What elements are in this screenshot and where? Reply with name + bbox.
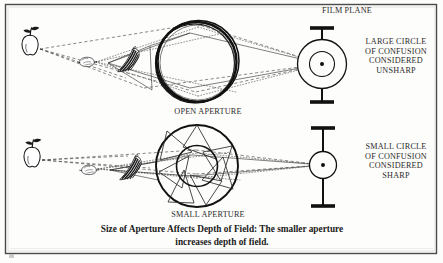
label-large-circle-of-confusion: LARGE CIRCLE OF CONFUSION CONSIDERED UNS… [352, 37, 440, 76]
small-circle-of-confusion [310, 152, 337, 179]
label-small-aperture: SMALL APERTURE [148, 210, 268, 220]
label-film-plane: FILM PLANE [292, 6, 402, 16]
subject-apple-small [24, 139, 41, 167]
small-aperture-row [24, 125, 337, 207]
subject-lemon-open [78, 57, 97, 66]
open-aperture-iris [156, 21, 240, 104]
depth-of-field-figure: FILM PLANE LARGE CIRCLE OF CONFUSION CON… [0, 0, 443, 263]
figure-caption: Size of Aperture Affects Depth of Field:… [22, 223, 422, 248]
subject-apple-open [22, 27, 39, 55]
caption-line-1: Size of Aperture Affects Depth of Field:… [22, 223, 422, 236]
subject-bananas-open [118, 47, 139, 72]
label-open-aperture: OPEN APERTURE [148, 107, 268, 117]
open-aperture-row [22, 21, 347, 104]
subject-lemon-small [80, 165, 99, 174]
caption-line-2: increases depth of field. [22, 236, 422, 249]
scan-artifact-speck [9, 254, 14, 258]
banana-ray-bundle-open [108, 33, 322, 90]
large-circle-of-confusion [298, 40, 347, 89]
small-aperture-iris [156, 125, 238, 207]
label-small-circle-of-confusion: SMALL CIRCLE OF CONFUSION CONSIDERED SHA… [352, 142, 440, 181]
